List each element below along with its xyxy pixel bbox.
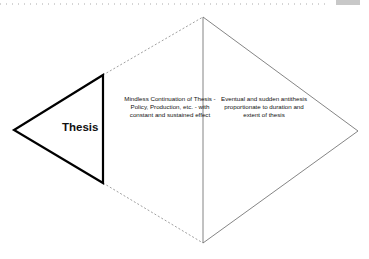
- dashed-edge-bottom: [103, 183, 203, 243]
- diagram-canvas: [0, 0, 369, 259]
- continuation-text: Mindless Continuation of Thesis - Policy…: [124, 95, 216, 119]
- antithesis-text: Eventual and sudden antithesis proportio…: [216, 95, 312, 119]
- dashed-edge-top: [103, 17, 203, 75]
- thesis-label: Thesis: [62, 121, 98, 133]
- antithesis-edges: [203, 17, 358, 243]
